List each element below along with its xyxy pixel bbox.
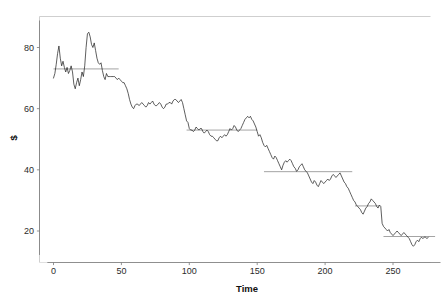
y-tick-label: 60 [24, 104, 34, 114]
y-tick-label: 20 [24, 226, 34, 236]
chart-background [0, 0, 445, 300]
x-axis-title: Time [236, 283, 258, 294]
y-axis-title: $ [8, 134, 19, 140]
chart-figure: 05010015020025020406080Time$ [0, 0, 445, 300]
y-tick-label: 40 [24, 165, 34, 175]
x-tick-label: 200 [318, 266, 333, 276]
x-tick-label: 0 [51, 266, 56, 276]
x-tick-label: 50 [116, 266, 126, 276]
x-tick-label: 150 [250, 266, 265, 276]
chart-canvas: 05010015020025020406080Time$ [0, 0, 445, 300]
x-tick-label: 100 [182, 266, 197, 276]
x-tick-label: 250 [385, 266, 400, 276]
y-tick-label: 80 [24, 43, 34, 53]
